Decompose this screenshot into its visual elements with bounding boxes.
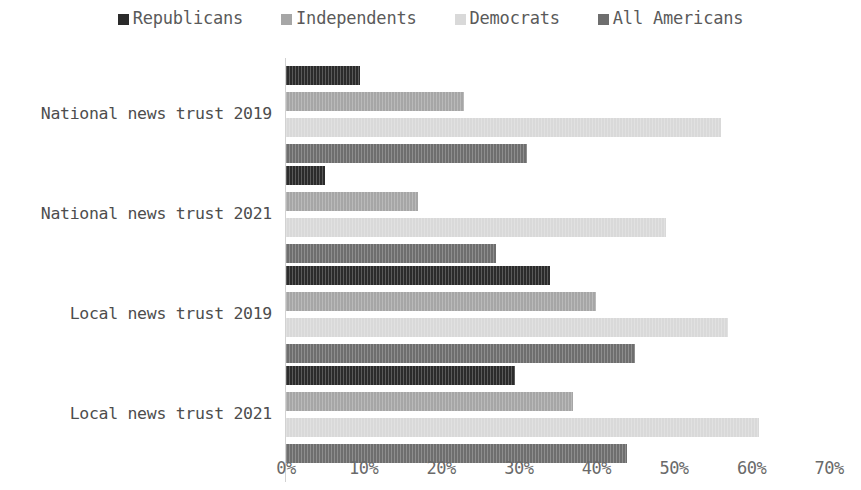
category-label: Local news trust 2019: [70, 306, 272, 323]
bar: [286, 344, 635, 363]
legend-swatch-all-americans: [598, 14, 609, 25]
x-tick-label: 20%: [427, 460, 456, 477]
legend-swatch-independents: [281, 14, 292, 25]
bar: [286, 392, 573, 411]
legend-item-republicans[interactable]: Republicans: [118, 10, 243, 27]
x-axis: 0%10%20%30%40%50%60%70%: [0, 458, 861, 488]
bar: [286, 66, 360, 85]
bars-layer: [286, 58, 861, 482]
category-label: National news trust 2019: [41, 106, 272, 123]
category-axis-labels: National news trust 2019National news tr…: [0, 58, 280, 482]
legend-label-republicans: Republicans: [133, 10, 243, 27]
bar: [286, 318, 728, 337]
x-tick-label: 10%: [349, 460, 378, 477]
x-tick-label: 40%: [582, 460, 611, 477]
bar: [286, 166, 325, 185]
bar-chart: Republicans Independents Democrats All A…: [0, 0, 861, 490]
x-tick-label: 0%: [276, 460, 295, 477]
bar: [286, 366, 515, 385]
plot-area: National news trust 2019National news tr…: [0, 40, 861, 460]
legend-item-democrats[interactable]: Democrats: [455, 10, 560, 27]
bar: [286, 144, 527, 163]
bar: [286, 244, 496, 263]
bar: [286, 218, 666, 237]
bar: [286, 418, 759, 437]
chart-legend: Republicans Independents Democrats All A…: [0, 4, 861, 32]
bar: [286, 192, 418, 211]
legend-label-democrats: Democrats: [470, 10, 560, 27]
bar: [286, 266, 550, 285]
legend-label-independents: Independents: [296, 10, 416, 27]
bar: [286, 292, 596, 311]
legend-item-independents[interactable]: Independents: [281, 10, 416, 27]
x-tick-label: 60%: [737, 460, 766, 477]
bar: [286, 92, 464, 111]
category-label: Local news trust 2021: [70, 406, 272, 423]
legend-swatch-democrats: [455, 14, 466, 25]
category-label: National news trust 2021: [41, 206, 272, 223]
legend-item-all-americans[interactable]: All Americans: [598, 10, 743, 27]
legend-swatch-republicans: [118, 14, 129, 25]
bar: [286, 118, 721, 137]
x-tick-label: 70%: [815, 460, 844, 477]
x-tick-label: 30%: [504, 460, 533, 477]
x-tick-label: 50%: [659, 460, 688, 477]
legend-label-all-americans: All Americans: [613, 10, 743, 27]
